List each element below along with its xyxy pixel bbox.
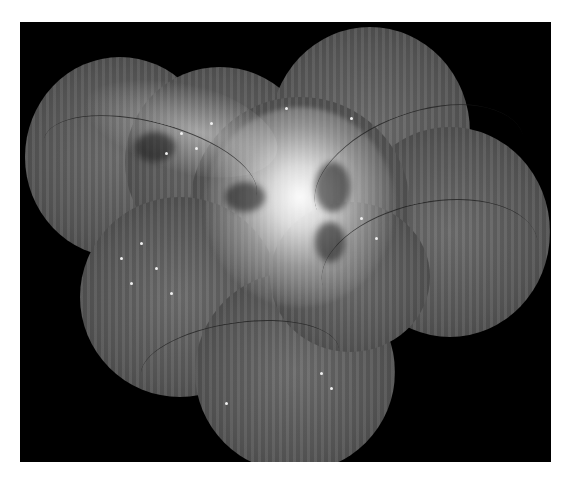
- exudate-spot: [120, 257, 123, 260]
- exudate-spot: [285, 107, 288, 110]
- exudate-spot: [210, 122, 213, 125]
- exudate-spot: [225, 402, 228, 405]
- exudate-spot: [330, 387, 333, 390]
- exudate-spot: [360, 217, 363, 220]
- exudate-spot: [155, 267, 158, 270]
- exudate-spot: [195, 147, 198, 150]
- exudate-spot: [140, 242, 143, 245]
- exudate-spot: [130, 282, 133, 285]
- exudate-spot: [170, 292, 173, 295]
- exudate-spot: [320, 372, 323, 375]
- exudate-spot: [165, 152, 168, 155]
- exudate-spot: [350, 117, 353, 120]
- exudate-spot: [180, 132, 183, 135]
- fundus-montage-frame: [20, 22, 551, 462]
- exudate-spot: [375, 237, 378, 240]
